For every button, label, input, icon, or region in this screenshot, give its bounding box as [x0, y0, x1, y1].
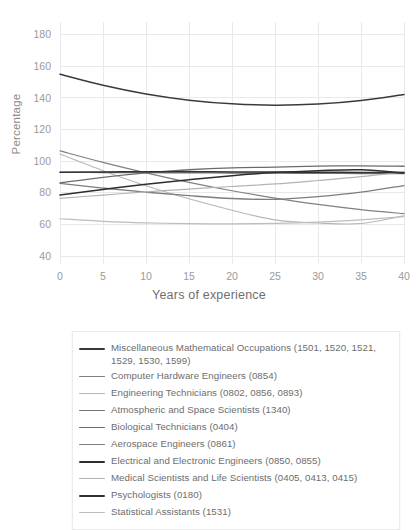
legend-item-label: Engineering Technicians (0802, 0856, 089…: [111, 386, 303, 400]
x-axis-tick-labels: 0510152025303540: [57, 270, 410, 282]
svg-text:30: 30: [312, 270, 324, 282]
svg-text:5: 5: [100, 270, 106, 282]
legend-item[interactable]: Medical Scientists and Life Scientists (…: [79, 471, 391, 486]
svg-text:140: 140: [33, 92, 51, 104]
legend-item-label: Psychologists (0180): [111, 488, 202, 502]
svg-text:25: 25: [269, 270, 281, 282]
legend-item[interactable]: Biological Technicians (0404): [79, 420, 391, 435]
legend-item[interactable]: Miscellaneous Mathematical Occupations (…: [79, 341, 391, 367]
svg-text:0: 0: [57, 270, 63, 282]
legend-item-label: Medical Scientists and Life Scientists (…: [111, 471, 357, 485]
y-axis-title: Percentage: [10, 74, 22, 174]
legend-item-label: Aerospace Engineers (0861): [111, 437, 236, 451]
x-axis-title: Years of experience: [0, 288, 418, 302]
svg-text:80: 80: [39, 186, 51, 198]
legend-swatch-icon: [79, 437, 105, 452]
legend-swatch-icon: [79, 403, 105, 418]
legend-item[interactable]: Statistical Assistants (1531): [79, 505, 391, 520]
y-axis-tick-labels: 406080100120140160180: [33, 28, 51, 261]
legend-item-label: Miscellaneous Mathematical Occupations (…: [111, 341, 391, 367]
chart-legend: Miscellaneous Mathematical Occupations (…: [72, 331, 400, 530]
legend-item[interactable]: Psychologists (0180): [79, 488, 391, 503]
legend-swatch-icon: [79, 505, 105, 520]
legend-item-label: Biological Technicians (0404): [111, 420, 238, 434]
legend-item[interactable]: Computer Hardware Engineers (0854): [79, 369, 391, 384]
gridlines: [60, 22, 404, 264]
legend-item-label: Electrical and Electronic Engineers (085…: [111, 454, 321, 468]
svg-text:15: 15: [183, 270, 195, 282]
svg-text:60: 60: [39, 218, 51, 230]
legend-item-label: Statistical Assistants (1531): [111, 505, 231, 519]
legend-swatch-icon: [79, 454, 105, 469]
line-chart-figure: 406080100120140160180 0510152025303540 P…: [0, 0, 418, 318]
series-line-8: [60, 172, 404, 173]
legend-swatch-icon: [79, 471, 105, 486]
legend-item[interactable]: Atmospheric and Space Scientists (1340): [79, 403, 391, 418]
plot-area: 406080100120140160180 0510152025303540: [0, 0, 418, 318]
svg-text:40: 40: [39, 250, 51, 262]
svg-text:10: 10: [140, 270, 152, 282]
legend-item-label: Atmospheric and Space Scientists (1340): [111, 403, 291, 417]
svg-text:35: 35: [355, 270, 367, 282]
legend-swatch-icon: [79, 420, 105, 435]
legend-swatch-icon: [79, 341, 105, 356]
svg-text:180: 180: [33, 28, 51, 40]
legend-item[interactable]: Electrical and Electronic Engineers (085…: [79, 454, 391, 469]
legend-swatch-icon: [79, 386, 105, 401]
svg-text:120: 120: [33, 123, 51, 135]
svg-text:40: 40: [398, 270, 410, 282]
legend-item-label: Computer Hardware Engineers (0854): [111, 369, 277, 383]
legend-swatch-icon: [79, 488, 105, 503]
legend-item[interactable]: Engineering Technicians (0802, 0856, 089…: [79, 386, 391, 401]
svg-text:20: 20: [226, 270, 238, 282]
svg-text:160: 160: [33, 60, 51, 72]
legend-item[interactable]: Aerospace Engineers (0861): [79, 437, 391, 452]
svg-text:100: 100: [33, 155, 51, 167]
legend-swatch-icon: [79, 369, 105, 384]
